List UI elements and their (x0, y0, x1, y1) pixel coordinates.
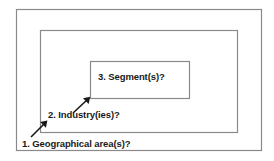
label-segment: 3. Segment(s)? (98, 72, 165, 82)
label-industry: 2. Industry(ies)? (48, 110, 120, 120)
label-geographical-area: 1. Geographical area(s)? (22, 139, 130, 149)
arrow-up-right-icon-geographical (31, 121, 47, 137)
diagram-canvas: 1. Geographical area(s)? 2. Industry(ies… (0, 0, 274, 161)
